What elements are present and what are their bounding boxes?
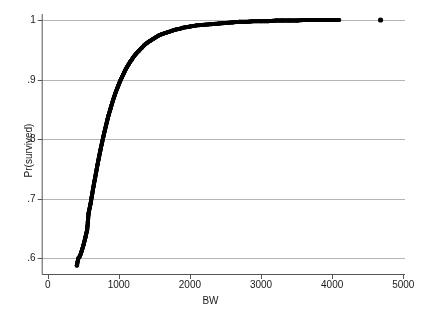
x-axis-title: BW bbox=[0, 295, 421, 306]
x-tick-label-2: 2000 bbox=[167, 280, 213, 290]
y-tick-label-0: .6 bbox=[10, 253, 36, 263]
chart-figure: Pr(survived) BW .6.7.8.91 01000200030004… bbox=[0, 0, 421, 315]
y-tick-label-1: .7 bbox=[10, 194, 36, 204]
y-tick-label-4: 1 bbox=[10, 15, 36, 25]
y-tick-label-2: .8 bbox=[10, 134, 36, 144]
x-tick-label-1: 1000 bbox=[96, 280, 142, 290]
y-tick-label-3: .9 bbox=[10, 75, 36, 85]
x-tick-label-4: 4000 bbox=[309, 280, 355, 290]
x-tick-label-3: 3000 bbox=[238, 280, 284, 290]
x-tick-label-0: 0 bbox=[25, 280, 71, 290]
scatter-plot-canvas bbox=[0, 0, 421, 315]
x-tick-label-5: 5000 bbox=[380, 280, 421, 290]
